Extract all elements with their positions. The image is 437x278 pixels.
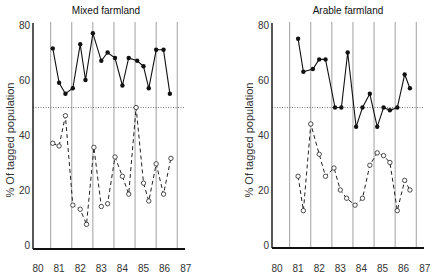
filled-data-point <box>375 125 379 129</box>
open-data-point <box>51 141 55 145</box>
y-tick-label: 40 <box>258 130 270 141</box>
open-data-point <box>388 160 392 164</box>
filled-data-point <box>83 78 87 82</box>
open-data-point <box>317 152 321 156</box>
open-data-point <box>375 151 379 155</box>
open-data-point <box>127 192 131 196</box>
open-data-point <box>161 192 165 196</box>
filled-data-point <box>360 105 364 109</box>
x-tick-label: 85 <box>377 263 389 274</box>
open-data-point <box>368 163 372 167</box>
filled-data-point <box>339 105 343 109</box>
solid-series-line <box>298 39 410 127</box>
open-data-point <box>344 196 348 200</box>
filled-data-point <box>168 92 172 96</box>
filled-data-point <box>154 48 158 52</box>
open-data-point <box>381 153 385 157</box>
filled-data-point <box>141 64 145 68</box>
filled-data-point <box>402 72 406 76</box>
filled-data-point <box>408 86 412 90</box>
y-tick-label: 60 <box>258 75 270 86</box>
filled-data-point <box>78 42 82 46</box>
open-data-point <box>169 156 173 160</box>
filled-data-point <box>345 50 349 54</box>
filled-data-point <box>388 108 392 112</box>
y-tick-label: 20 <box>258 185 270 196</box>
filled-data-point <box>127 56 131 60</box>
y-tick-label: 80 <box>19 20 31 31</box>
x-tick-label: 84 <box>117 263 129 274</box>
y-tick-label: 20 <box>19 185 31 196</box>
chart-title: Mixed farmland <box>72 5 140 16</box>
x-tick-label: 83 <box>96 263 108 274</box>
open-data-point <box>296 174 300 178</box>
open-data-point <box>353 203 357 207</box>
y-tick-label: 0 <box>263 240 269 251</box>
filled-data-point <box>368 92 372 96</box>
x-tick-label: 86 <box>159 263 171 274</box>
filled-data-point <box>147 86 151 90</box>
open-data-point <box>147 199 151 203</box>
filled-data-point <box>395 105 399 109</box>
y-tick-label: 80 <box>258 20 270 31</box>
open-data-point <box>309 122 313 126</box>
open-data-point <box>71 203 75 207</box>
y-tick-label: 60 <box>19 75 31 86</box>
filled-data-point <box>63 92 67 96</box>
filled-data-point <box>323 57 327 61</box>
x-tick-label: 87 <box>419 263 431 274</box>
filled-data-point <box>71 86 75 90</box>
open-data-point <box>338 188 342 192</box>
x-tick-label: 86 <box>398 263 410 274</box>
filled-data-point <box>91 31 95 35</box>
filled-data-point <box>161 48 165 52</box>
open-data-point <box>332 166 336 170</box>
x-tick-label: 80 <box>32 263 44 274</box>
chart-title: Arable farmland <box>313 5 384 16</box>
chart-canvas: Mixed farmland0204060808081828384858687%… <box>0 0 437 278</box>
open-data-point <box>105 202 109 206</box>
y-axis-label: % Of tagged population <box>243 83 255 198</box>
x-tick-label: 80 <box>271 263 283 274</box>
x-tick-label: 82 <box>75 263 87 274</box>
open-data-point <box>120 174 124 178</box>
open-data-point <box>360 196 364 200</box>
y-tick-label: 40 <box>19 130 31 141</box>
filled-data-point <box>105 50 109 54</box>
open-data-point <box>113 155 117 159</box>
open-data-point <box>57 144 61 148</box>
filled-data-point <box>317 57 321 61</box>
filled-data-point <box>57 81 61 85</box>
solid-series-line <box>53 33 170 94</box>
x-tick-label: 82 <box>314 263 326 274</box>
open-data-point <box>154 162 158 166</box>
open-data-point <box>395 208 399 212</box>
open-data-point <box>63 114 67 118</box>
filled-data-point <box>354 125 358 129</box>
filled-data-point <box>333 105 337 109</box>
open-data-point <box>301 208 305 212</box>
x-tick-label: 81 <box>54 263 66 274</box>
filled-data-point <box>135 59 139 63</box>
open-data-point <box>134 105 138 109</box>
x-tick-label: 83 <box>335 263 347 274</box>
filled-data-point <box>381 105 385 109</box>
filled-data-point <box>120 83 124 87</box>
open-data-point <box>141 181 145 185</box>
open-data-point <box>78 207 82 211</box>
x-tick-label: 84 <box>356 263 368 274</box>
open-data-point <box>408 188 412 192</box>
y-tick-label: 0 <box>24 240 30 251</box>
figure: Mixed farmland0204060808081828384858687%… <box>0 0 437 278</box>
y-axis-label: % Of tagged population <box>4 83 16 198</box>
filled-data-point <box>51 46 55 50</box>
x-tick-label: 81 <box>293 263 305 274</box>
filled-data-point <box>301 70 305 74</box>
dashed-series-line <box>298 124 410 211</box>
filled-data-point <box>296 37 300 41</box>
open-data-point <box>99 204 103 208</box>
x-tick-label: 85 <box>138 263 150 274</box>
dashed-series-line <box>53 108 171 225</box>
filled-data-point <box>311 67 315 71</box>
filled-data-point <box>113 56 117 60</box>
